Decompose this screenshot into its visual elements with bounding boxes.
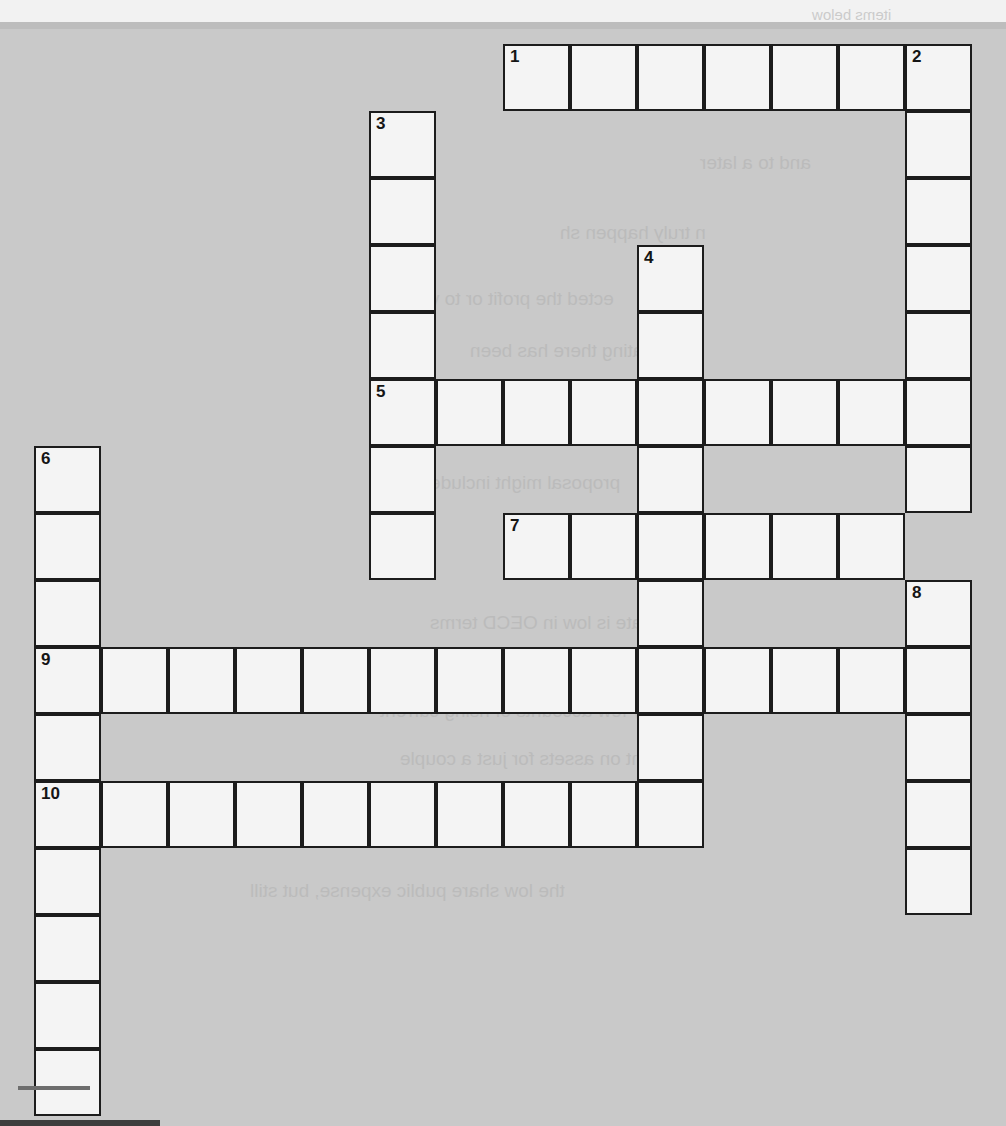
cell-number-1: 1 (510, 48, 519, 67)
crossword-cell[interactable] (503, 647, 570, 714)
crossword-cell[interactable] (302, 781, 369, 848)
cell-number-5: 5 (376, 383, 385, 402)
crossword-cell[interactable] (771, 44, 838, 111)
crossword-cell[interactable] (503, 781, 570, 848)
scanned-page: items belowand to a later n truly happen… (0, 0, 1006, 1126)
crossword-cell[interactable] (838, 379, 905, 446)
crossword-cell[interactable]: 5 (369, 379, 436, 446)
crossword-cell[interactable] (905, 312, 972, 379)
crossword-cell[interactable] (436, 781, 503, 848)
crossword-cell[interactable] (369, 245, 436, 312)
crossword-cell[interactable]: 8 (905, 580, 972, 647)
crossword-cell[interactable] (369, 781, 436, 848)
crossword-cell[interactable] (369, 178, 436, 245)
crossword-cell[interactable] (369, 513, 436, 580)
cell-number-9: 9 (41, 651, 50, 670)
crossword-cell[interactable] (369, 446, 436, 513)
crossword-cell[interactable] (838, 44, 905, 111)
crossword-cell[interactable] (637, 580, 704, 647)
crossword-cell[interactable] (34, 1049, 101, 1116)
crossword-cell[interactable]: 1 (503, 44, 570, 111)
crossword-cell[interactable]: 7 (503, 513, 570, 580)
crossword-cell[interactable] (905, 781, 972, 848)
crossword-cell[interactable] (771, 647, 838, 714)
crossword-cell[interactable] (637, 714, 704, 781)
crossword-cell[interactable] (704, 44, 771, 111)
cell-number-4: 4 (644, 249, 653, 268)
crossword-cell[interactable] (771, 513, 838, 580)
crossword-cell[interactable] (101, 647, 168, 714)
crossword-cell[interactable] (771, 379, 838, 446)
crossword-cell[interactable] (570, 379, 637, 446)
crossword-cell[interactable] (34, 982, 101, 1049)
crossword-cell[interactable] (34, 580, 101, 647)
cell-number-6: 6 (41, 450, 50, 469)
crossword-cell[interactable]: 10 (34, 781, 101, 848)
cell-number-8: 8 (912, 584, 921, 603)
cell-number-10: 10 (41, 785, 60, 804)
crossword-cell[interactable]: 3 (369, 111, 436, 178)
crossword-cell[interactable] (302, 647, 369, 714)
crossword-cell[interactable] (905, 848, 972, 915)
cell-number-3: 3 (376, 115, 385, 134)
crossword-cell[interactable] (704, 379, 771, 446)
crossword-cell[interactable] (905, 245, 972, 312)
crossword-cell[interactable] (235, 781, 302, 848)
crossword-cell[interactable] (905, 446, 972, 513)
crossword-cell[interactable] (838, 647, 905, 714)
crossword-cell[interactable] (570, 44, 637, 111)
page-bottom-bar (0, 1120, 160, 1126)
crossword-cell[interactable] (570, 781, 637, 848)
crossword-cell[interactable] (637, 446, 704, 513)
crossword-cell[interactable] (637, 44, 704, 111)
crossword-cell[interactable] (905, 647, 972, 714)
crossword-cell[interactable]: 4 (637, 245, 704, 312)
crossword-cell[interactable] (436, 379, 503, 446)
crossword-cell[interactable] (637, 647, 704, 714)
crossword-cell[interactable] (168, 781, 235, 848)
crossword-cell[interactable] (34, 848, 101, 915)
crossword-cell[interactable] (503, 379, 570, 446)
crossword-cell[interactable] (34, 915, 101, 982)
crossword-cell[interactable] (570, 513, 637, 580)
crossword-cell[interactable] (905, 379, 972, 446)
crossword-cell[interactable] (637, 781, 704, 848)
crossword-cell[interactable] (168, 647, 235, 714)
crossword-cell[interactable] (101, 781, 168, 848)
cell-number-2: 2 (912, 48, 921, 67)
crossword-cell[interactable] (369, 312, 436, 379)
crossword-cell[interactable] (838, 513, 905, 580)
crossword-cell[interactable]: 6 (34, 446, 101, 513)
crossword-cell[interactable] (637, 513, 704, 580)
crossword-grid[interactable]: 12345678910 (0, 0, 1006, 1126)
crossword-cell[interactable] (235, 647, 302, 714)
crossword-cell[interactable] (905, 178, 972, 245)
crossword-cell[interactable] (369, 647, 436, 714)
crossword-cell[interactable]: 9 (34, 647, 101, 714)
crossword-cell[interactable] (637, 379, 704, 446)
crossword-cell[interactable]: 2 (905, 44, 972, 111)
crossword-cell[interactable] (34, 714, 101, 781)
crossword-cell[interactable] (704, 647, 771, 714)
crossword-cell[interactable] (637, 312, 704, 379)
crossword-cell[interactable] (436, 647, 503, 714)
page-artifact-mark (18, 1086, 90, 1090)
crossword-cell[interactable] (704, 513, 771, 580)
cell-number-7: 7 (510, 517, 519, 536)
crossword-cell[interactable] (905, 111, 972, 178)
crossword-cell[interactable] (34, 513, 101, 580)
crossword-cell[interactable] (570, 647, 637, 714)
crossword-cell[interactable] (905, 714, 972, 781)
